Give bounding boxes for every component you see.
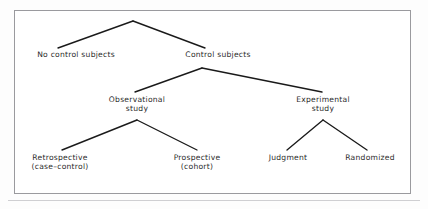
node-label-line1: Randomized <box>345 153 395 162</box>
node-label-line2: study <box>296 104 350 113</box>
tree-branch-control-subjects-to-experimental-study <box>202 68 322 92</box>
tree-branch-control-subjects-to-observational-study <box>135 68 202 92</box>
node-label-line1: Experimental <box>296 95 350 104</box>
node-label-line2: (case–control) <box>31 162 88 171</box>
tree-branch-experimental-study-to-randomized <box>323 120 367 150</box>
figure-canvas: No control subjects Control subjects Obs… <box>0 0 428 209</box>
node-label-no-control-subjects: No control subjects <box>37 50 115 59</box>
node-label-experimental-study: Experimental study <box>296 95 350 114</box>
node-label-line1: Retrospective <box>32 153 87 162</box>
node-label-line1: No control subjects <box>37 50 115 59</box>
tree-branch-root-to-no-control-subjects <box>58 21 133 48</box>
node-label-line2: (cohort) <box>174 162 221 171</box>
node-label-control-subjects: Control subjects <box>185 50 250 59</box>
node-label-line1: Judgment <box>269 153 308 162</box>
node-label-prospective-cohort: Prospective (cohort) <box>174 153 221 172</box>
node-label-observational-study: Observational study <box>109 95 165 114</box>
node-label-judgment: Judgment <box>269 153 308 162</box>
node-label-randomized: Randomized <box>345 153 395 162</box>
tree-branch-experimental-study-to-judgment <box>287 120 323 150</box>
tree-branches <box>0 0 428 209</box>
tree-branch-observational-study-to-retrospective-case-control <box>62 120 137 150</box>
tree-branch-root-to-control-subjects <box>133 21 205 48</box>
node-label-retrospective-case-control: Retrospective (case–control) <box>31 153 88 172</box>
page-edge-shadow <box>8 200 420 201</box>
node-label-line2: study <box>109 104 165 113</box>
node-label-line1: Prospective <box>174 153 221 162</box>
tree-branch-observational-study-to-prospective-cohort <box>137 120 197 150</box>
node-label-line1: Observational <box>109 95 165 104</box>
node-label-line1: Control subjects <box>185 50 250 59</box>
